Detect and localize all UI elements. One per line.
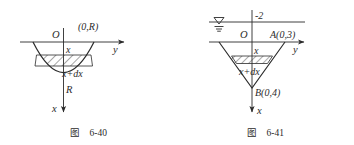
figure-6-41-caption: 图6-41 [177, 125, 354, 139]
strip-top-label: x [65, 44, 71, 55]
figure-6-41: -2 O A(0,3) x x+dx B(0,4) y x 图6-41 [177, 0, 354, 145]
origin-label: O [240, 29, 248, 40]
strip-right-edge [91, 55, 93, 66]
water-level-value-label: -2 [255, 10, 263, 21]
caption-number: 6-41 [267, 128, 284, 138]
differential-strip [20, 55, 108, 66]
strip-bottom-label: x+dx [61, 68, 83, 79]
point-b-label: B(0,4) [255, 87, 281, 99]
strip-bottom-label: x+dx [238, 66, 260, 77]
y-axis-label: y [292, 44, 298, 55]
y-axis-label: y [112, 44, 118, 55]
figure-pair-canvas: O (0,R) x x+dx R y x 图6-40 [0, 0, 354, 145]
figure-6-40-caption: 图6-40 [0, 125, 177, 139]
figure-6-40-drawing: O (0,R) x x+dx R y x [0, 0, 177, 145]
caption-number: 6-40 [90, 128, 107, 138]
figure-6-41-drawing: -2 O A(0,3) x x+dx B(0,4) y x [177, 0, 354, 145]
strip-top-label: x [253, 45, 259, 56]
strip-hatch-fill [207, 56, 302, 64]
figure-6-40: O (0,R) x x+dx R y x 图6-40 [0, 0, 177, 145]
x-axis-label: x [51, 103, 57, 114]
strip-left-edge [35, 55, 37, 66]
water-level-triangle-icon [214, 18, 224, 32]
rim-point-label: (0,R) [78, 21, 99, 33]
origin-label: O [52, 29, 60, 40]
differential-strip [207, 56, 302, 64]
point-a-label: A(0,3) [269, 29, 296, 41]
caption-cjk-label: 图 [247, 127, 258, 138]
caption-cjk-label: 图 [70, 127, 81, 138]
depth-label: R [65, 84, 73, 95]
strip-hatch-fill [20, 55, 108, 66]
x-axis-label: x [256, 105, 262, 116]
